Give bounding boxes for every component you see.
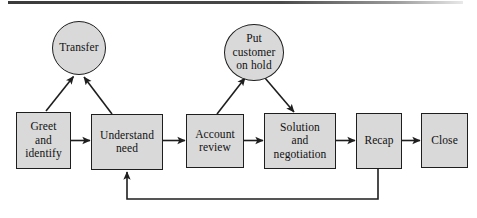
node-account-review-label: Account review [193,128,237,155]
node-solution-and-negotiation[interactable]: Solution and negotiation [264,113,336,169]
node-close[interactable]: Close [421,113,468,168]
node-transfer-label: Transfer [57,41,100,55]
node-account-review[interactable]: Account review [186,114,244,168]
node-put-customer-on-hold[interactable]: Put customer on hold [224,24,284,81]
node-understand-need-label: Understand need [98,129,156,156]
edge-put-on-hold-to-solution [265,78,294,112]
edge-recap-to-understand-feedback [127,169,378,199]
node-greet-and-identify-label: Greet and identify [23,120,64,161]
node-greet-and-identify[interactable]: Greet and identify [16,112,71,169]
node-transfer[interactable]: Transfer [52,21,106,75]
node-solution-and-negotiation-label: Solution and negotiation [272,121,329,162]
edge-account-to-put-on-hold [217,78,245,114]
edge-greet-to-transfer [46,77,74,112]
node-recap[interactable]: Recap [356,113,402,169]
flowchart-diagram: Transfer Put customer on hold Greet and … [0,0,477,218]
header-rule [8,1,463,4]
node-understand-need[interactable]: Understand need [91,114,163,170]
node-put-customer-on-hold-label: Put customer on hold [231,32,278,73]
edge-understand-to-transfer [84,77,112,114]
node-close-label: Close [429,134,460,148]
node-recap-label: Recap [362,134,395,148]
